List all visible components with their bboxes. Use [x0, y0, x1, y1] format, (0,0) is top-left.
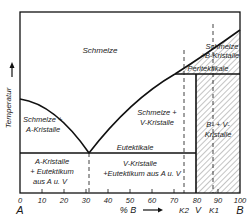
right-arrow-icon — [143, 208, 163, 213]
svg-text:10: 10 — [38, 196, 47, 205]
region-b-v: B- + V- Kristalle — [205, 120, 232, 139]
svg-text:aus A u. V: aus A u. V — [33, 177, 68, 186]
svg-text:Schmelze +: Schmelze + — [137, 108, 177, 117]
up-arrow-icon — [10, 62, 15, 77]
peritectic-label: Peritektikale — [188, 64, 229, 73]
region-melt-v: Schmelze + V-Kristalle — [137, 108, 177, 127]
svg-text:70: 70 — [170, 196, 179, 205]
svg-text:40: 40 — [104, 196, 113, 205]
region-melt: Schmelze — [82, 46, 118, 55]
svg-text:V-Kristalle: V-Kristalle — [140, 118, 174, 127]
svg-text:Schmelze +: Schmelze + — [23, 115, 63, 124]
region-melt-b: Schmelze +B-Kristalle — [201, 42, 240, 60]
x-axis-label: % B — [120, 205, 137, 215]
svg-text:20: 20 — [59, 196, 69, 205]
y-axis-label: Temperatur — [4, 87, 13, 128]
svg-text:+ Eutektikum: + Eutektikum — [30, 167, 74, 176]
marker-k1: K1 — [209, 206, 219, 215]
phase-diagram: 0 10 20 30 40 50 60 70 80 90 100 A B % B… — [0, 0, 250, 218]
region-melt-a: Schmelze + A-Kristalle — [23, 115, 63, 134]
svg-text:B- + V-: B- + V- — [206, 120, 230, 129]
eutectic-label: Eutektikale — [117, 143, 154, 152]
marker-v: V — [195, 205, 202, 215]
svg-text:+B-Kristalle: +B-Kristalle — [201, 51, 240, 60]
label-b: B — [236, 204, 243, 216]
svg-text:A-Kristalle: A-Kristalle — [25, 125, 60, 134]
svg-text:80: 80 — [193, 196, 202, 205]
svg-text:Schmelze: Schmelze — [206, 42, 239, 51]
marker-k2: K2 — [179, 206, 189, 215]
region-v-eutectic: V-Kristalle +Eutektikum aus A u. V — [103, 159, 182, 178]
region-a-eutectic: A-Kristalle + Eutektikum aus A u. V — [30, 157, 74, 186]
svg-text:V-Kristalle: V-Kristalle — [123, 159, 157, 168]
svg-text:60: 60 — [148, 196, 157, 205]
x-tick-labels: 0 10 20 30 40 50 60 70 80 90 100 — [18, 196, 247, 205]
svg-text:90: 90 — [214, 196, 223, 205]
label-a: A — [15, 204, 23, 216]
svg-text:50: 50 — [126, 196, 135, 205]
svg-text:A-Kristalle: A-Kristalle — [34, 157, 69, 166]
svg-text:30: 30 — [82, 196, 91, 205]
svg-text:+Eutektikum aus A u. V: +Eutektikum aus A u. V — [103, 169, 182, 178]
svg-text:Kristalle: Kristalle — [205, 130, 232, 139]
